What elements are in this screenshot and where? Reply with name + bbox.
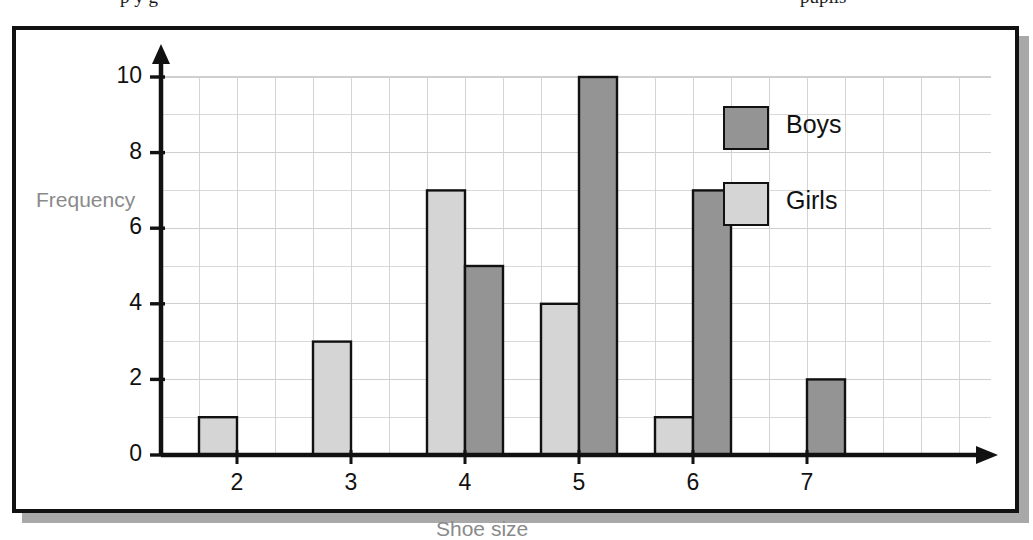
- bar-4-boys: [465, 266, 503, 455]
- x-tick-label: 4: [441, 469, 489, 496]
- bar-4-girls: [427, 190, 465, 455]
- chart-canvas: [16, 30, 1015, 509]
- x-tick-label: 2: [213, 469, 261, 496]
- bar-chart: Frequency Shoe size 0246810 234567 BoysG…: [16, 30, 1015, 509]
- y-tick-label: 0: [94, 440, 142, 467]
- y-axis-title: Frequency: [36, 188, 135, 212]
- legend-label-girls: Girls: [786, 186, 837, 215]
- bar-2-girls: [199, 417, 237, 455]
- scan-text-fragment-left: p y g: [120, 0, 158, 8]
- x-tick-label: 3: [327, 469, 375, 496]
- x-tick-label: 7: [783, 469, 831, 496]
- y-tick-label: 4: [94, 289, 142, 316]
- bar-3-girls: [313, 342, 351, 455]
- y-tick-label: 8: [94, 138, 142, 165]
- legend-label-boys: Boys: [786, 110, 842, 139]
- figure-frame: Frequency Shoe size 0246810 234567 BoysG…: [12, 26, 1019, 513]
- bar-5-girls: [541, 304, 579, 455]
- x-axis-title: Shoe size: [436, 517, 528, 540]
- y-tick-label: 2: [94, 364, 142, 391]
- y-tick-label: 10: [94, 62, 142, 89]
- scan-text-fragment-right: pupils: [800, 0, 846, 8]
- legend-swatch-boys: [723, 106, 769, 150]
- legend-swatch-girls: [723, 182, 769, 226]
- bar-7-boys: [807, 379, 845, 455]
- bar-5-boys: [579, 77, 617, 455]
- scan-page-text: p y g pupils: [0, 0, 1033, 18]
- bar-6-boys: [693, 190, 731, 455]
- x-tick-label: 5: [555, 469, 603, 496]
- x-tick-label: 6: [669, 469, 717, 496]
- bar-6-girls: [655, 417, 693, 455]
- y-tick-label: 6: [94, 213, 142, 240]
